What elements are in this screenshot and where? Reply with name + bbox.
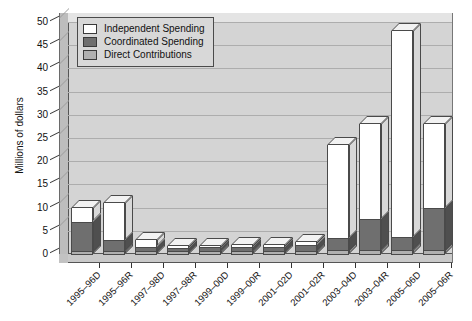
bar-base-line [231, 254, 253, 255]
bar-segment-divider [103, 240, 125, 241]
x-tick-mark [355, 263, 356, 268]
bar-segment-divider [71, 251, 93, 252]
bar-segment-divider [103, 251, 125, 252]
bar-segment [423, 208, 445, 251]
bar-segment-divider [391, 237, 413, 238]
bar-series-group [0, 0, 472, 321]
x-tick-mark [259, 263, 260, 268]
bar-base-line [199, 254, 221, 255]
bar-side-face [445, 116, 453, 208]
bar-base-line [391, 254, 413, 255]
bar-segment-divider [359, 250, 381, 251]
bar-base-line [423, 254, 445, 255]
bar-segment-divider [231, 251, 253, 252]
bar-segment-divider [135, 247, 157, 248]
legend-label: Coordinated Spending [104, 37, 204, 47]
bar-segment-divider [167, 248, 189, 249]
legend-swatch [83, 37, 97, 47]
bar-segment-divider [231, 247, 253, 248]
x-tick-mark [451, 263, 452, 268]
bar-segment-divider [359, 219, 381, 220]
bar-segment-divider [423, 208, 445, 209]
bar-segment [103, 203, 125, 240]
x-tick-mark [195, 263, 196, 268]
bar-segment [103, 240, 125, 251]
bar-base-line [135, 254, 157, 255]
legend-swatch [83, 50, 97, 60]
bar-segment [327, 145, 349, 238]
bar-segment [359, 219, 381, 250]
x-tick-mark [323, 263, 324, 268]
bar-segment-divider [135, 251, 157, 252]
chart-legend: Independent SpendingCoordinated Spending… [77, 17, 214, 67]
bar-base-line [327, 254, 349, 255]
bar-base-line [167, 254, 189, 255]
x-tick-mark [387, 263, 388, 268]
bar-side-face [413, 23, 421, 237]
x-tick-mark [291, 263, 292, 268]
bar-segment-divider [327, 238, 349, 239]
bar-segment-divider [263, 251, 285, 252]
bar-segment [423, 124, 445, 208]
bar-segment [71, 208, 93, 221]
x-tick-mark [163, 263, 164, 268]
bar-side-face [349, 137, 357, 238]
bar-segment [71, 222, 93, 252]
bar-chart: 05101520253035404550 Millions of dollars… [0, 0, 472, 321]
bar-segment-divider [295, 251, 317, 252]
bar-segment-divider [327, 250, 349, 251]
bar-base-line [263, 254, 285, 255]
bar-segment-divider [391, 250, 413, 251]
bar-segment-divider [263, 247, 285, 248]
bar-segment-divider [167, 251, 189, 252]
legend-label: Direct Contributions [104, 50, 192, 60]
bar-base-line [103, 254, 125, 255]
bar-segment-divider [423, 250, 445, 251]
bar-base-line [295, 254, 317, 255]
bar-segment-divider [295, 245, 317, 246]
legend-swatch [83, 24, 97, 34]
legend-item: Coordinated Spending [83, 36, 205, 48]
bar-base-line [359, 254, 381, 255]
legend-item: Independent Spending [83, 23, 205, 35]
legend-label: Independent Spending [104, 24, 205, 34]
bar-segment [359, 124, 381, 219]
bar-segment [391, 237, 413, 250]
bar-segment-divider [199, 247, 221, 248]
x-tick-mark [131, 263, 132, 268]
x-tick-mark [419, 263, 420, 268]
bar-base-line [71, 254, 93, 255]
x-tick-mark [99, 263, 100, 268]
bar-segment-divider [71, 222, 93, 223]
bar-side-face [445, 200, 453, 251]
legend-item: Direct Contributions [83, 49, 205, 61]
bar-segment [327, 238, 349, 251]
bar-side-face [381, 116, 389, 219]
bar-segment [391, 31, 413, 237]
x-tick-mark [227, 263, 228, 268]
bar-segment-divider [199, 251, 221, 252]
